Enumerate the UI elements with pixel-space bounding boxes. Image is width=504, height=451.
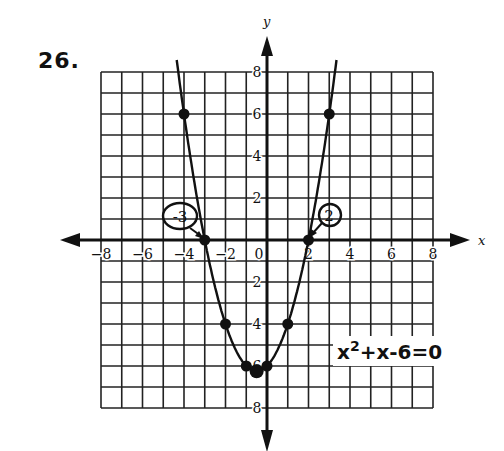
x-axis-label: x — [478, 233, 486, 248]
x-tick-label: 6 — [387, 246, 396, 262]
y-tick-label: 2 — [253, 190, 262, 206]
y-tick-label: 4 — [253, 316, 262, 332]
x-tick-label: −4 — [174, 246, 195, 262]
data-point — [324, 109, 335, 120]
equation-label: x2+x-6=0 — [333, 336, 446, 366]
equation-base: x — [337, 340, 350, 364]
y-tick-label: 8 — [253, 64, 262, 80]
x-tick-label: −6 — [132, 246, 153, 262]
x-tick-label: −8 — [91, 246, 112, 262]
x-tick-label: 4 — [346, 246, 355, 262]
equation-exponent: 2 — [350, 338, 360, 354]
y-axis-down-arrow-icon — [261, 430, 273, 451]
equation-rest: +x-6=0 — [360, 340, 443, 364]
data-point — [282, 319, 293, 330]
x-axis-left-arrow-icon — [60, 233, 80, 247]
y-tick-label: 2 — [253, 274, 262, 290]
y-tick-label: 8 — [253, 400, 262, 416]
x-tick-label: 0 — [255, 246, 264, 262]
x-tick-label: 8 — [429, 246, 438, 262]
x-tick-label: −2 — [215, 246, 236, 262]
data-point — [303, 235, 314, 246]
y-axis-up-arrow-icon — [261, 36, 273, 56]
data-point — [220, 319, 231, 330]
left-root-label: -3 — [173, 208, 188, 226]
data-point — [179, 109, 190, 120]
y-axis-label: y — [262, 14, 271, 29]
right-root-label: 2 — [324, 207, 334, 225]
y-tick-label: 6 — [253, 106, 262, 122]
data-point — [262, 361, 273, 372]
graph: xy−8−6−4−20246886422468-32 — [0, 0, 504, 451]
x-axis-right-arrow-icon — [450, 233, 470, 247]
y-tick-label: 4 — [253, 148, 262, 164]
